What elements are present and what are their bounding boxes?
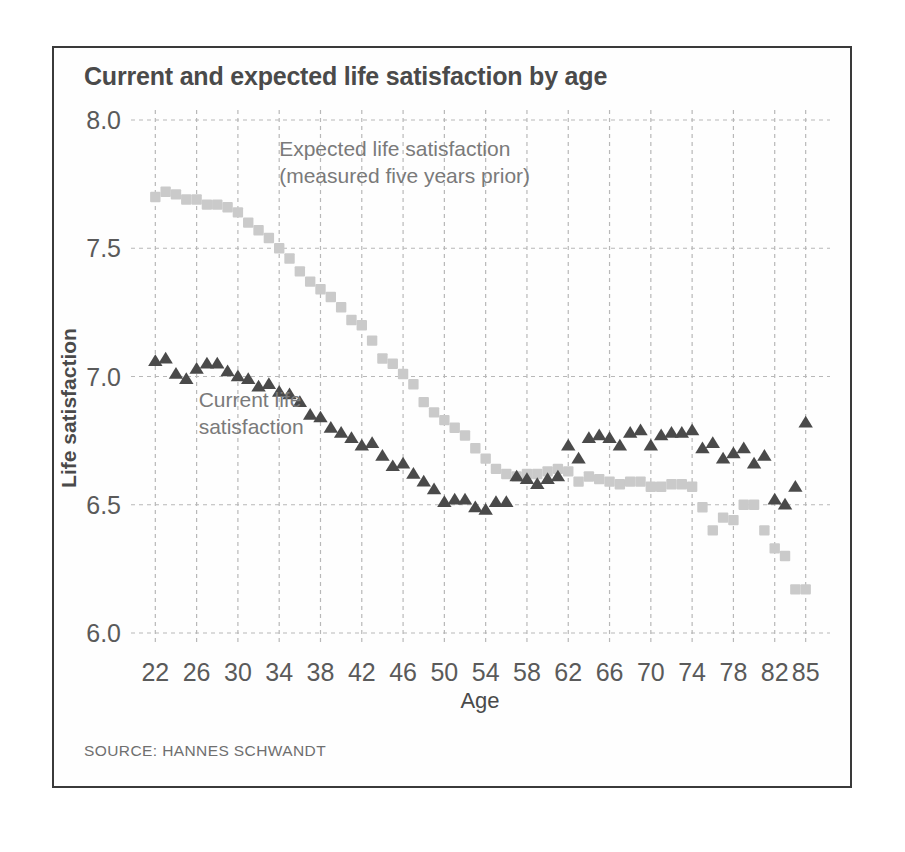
y-tick-label: 7.0 [86, 363, 121, 391]
data-point-current [602, 431, 616, 443]
data-point-expected [749, 500, 759, 510]
data-point-expected [264, 233, 274, 243]
data-point-current [158, 352, 172, 364]
x-tick-label: 70 [637, 658, 665, 686]
data-point-expected [687, 482, 697, 492]
data-point-expected [171, 189, 181, 199]
data-point-expected [470, 443, 480, 453]
data-point-current [241, 372, 255, 384]
scatter-plot: 6.06.57.07.58.0 222630343842465054586266… [54, 48, 854, 790]
x-tick-label: 62 [554, 658, 582, 686]
data-point-expected [202, 199, 212, 209]
data-point-expected [728, 515, 738, 525]
data-point-expected [460, 430, 470, 440]
data-point-expected [584, 471, 594, 481]
data-point-current [324, 421, 338, 433]
data-point-expected [739, 500, 749, 510]
data-point-expected [759, 525, 769, 535]
data-point-current [757, 449, 771, 461]
data-point-expected [253, 225, 263, 235]
data-point-expected [274, 243, 284, 253]
data-point-current [737, 441, 751, 453]
data-point-current [148, 354, 162, 366]
data-point-expected [501, 469, 511, 479]
data-point-expected [150, 192, 160, 202]
data-point-current [437, 495, 451, 507]
data-point-expected [780, 551, 790, 561]
data-point-current [406, 467, 420, 479]
data-point-expected [346, 315, 356, 325]
data-point-expected [326, 292, 336, 302]
data-point-expected [191, 194, 201, 204]
annotation-line: Current life [199, 388, 302, 411]
annotation-line: (measured five years prior) [279, 164, 530, 187]
data-point-expected [491, 464, 501, 474]
data-point-current [375, 449, 389, 461]
y-tick-label: 7.5 [86, 234, 121, 262]
x-tick-label: 82 [761, 658, 789, 686]
data-point-expected [594, 474, 604, 484]
data-point-expected [295, 266, 305, 276]
data-point-expected [563, 466, 573, 476]
x-tick-label: 85 [792, 658, 820, 686]
data-point-expected [419, 397, 429, 407]
y-tick-label: 8.0 [86, 106, 121, 134]
data-point-current [386, 459, 400, 471]
data-point-current [458, 493, 472, 505]
data-point-expected [388, 358, 398, 368]
data-point-expected [243, 217, 253, 227]
y-axis-title: Life satisfaction [57, 328, 80, 488]
y-tick-label: 6.5 [86, 491, 121, 519]
data-point-expected [480, 453, 490, 463]
data-point-expected [439, 415, 449, 425]
data-point-current [592, 429, 606, 441]
data-point-expected [770, 543, 780, 553]
annotation-line: satisfaction [199, 415, 304, 438]
data-point-current [685, 423, 699, 435]
x-tick-label: 26 [183, 658, 211, 686]
data-point-current [675, 426, 689, 438]
x-tick-label: 46 [389, 658, 417, 686]
data-point-expected [222, 202, 232, 212]
data-point-expected [233, 207, 243, 217]
x-tick-label: 58 [513, 658, 541, 686]
data-point-current [313, 411, 327, 423]
data-point-current [396, 457, 410, 469]
data-point-expected [635, 476, 645, 486]
data-point-current [262, 377, 276, 389]
data-point-expected [377, 353, 387, 363]
data-point-current [303, 408, 317, 420]
data-point-expected [357, 320, 367, 330]
data-point-current [654, 429, 668, 441]
data-point-expected [790, 584, 800, 594]
data-point-current [788, 480, 802, 492]
data-point-expected [284, 253, 294, 263]
x-axis-title: Age [460, 688, 499, 713]
data-point-expected [336, 302, 346, 312]
data-point-current [365, 436, 379, 448]
data-point-expected [160, 187, 170, 197]
data-point-expected [367, 335, 377, 345]
data-point-expected [449, 423, 459, 433]
source-note: SOURCE: HANNES SCHWANDT [84, 742, 326, 760]
data-point-expected [718, 512, 728, 522]
data-point-current [633, 423, 647, 435]
x-axis-tick-labels: 2226303438424650545862667074788285 [141, 658, 819, 686]
data-point-expected [604, 476, 614, 486]
y-axis-tick-labels: 6.06.57.07.58.0 [86, 106, 121, 647]
data-point-current [210, 357, 224, 369]
data-point-current [499, 495, 513, 507]
data-point-current [798, 416, 812, 428]
x-tick-label: 78 [720, 658, 748, 686]
data-point-expected [408, 379, 418, 389]
chart-page: Current and expected life satisfaction b… [0, 0, 905, 852]
data-point-expected [573, 476, 583, 486]
x-tick-label: 54 [472, 658, 500, 686]
data-point-expected [625, 476, 635, 486]
data-point-expected [181, 194, 191, 204]
expected-annotation: Expected life satisfaction(measured five… [279, 137, 530, 187]
x-tick-label: 22 [141, 658, 169, 686]
data-point-expected [212, 199, 222, 209]
data-point-expected [656, 482, 666, 492]
x-tick-label: 66 [596, 658, 624, 686]
